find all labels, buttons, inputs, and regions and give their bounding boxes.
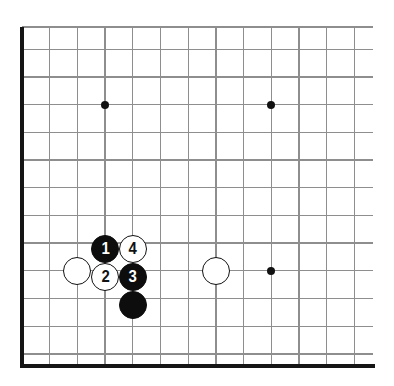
grid-line-vertical-6	[188, 27, 189, 366]
board-edge-bottom	[20, 364, 375, 368]
stone-black-move-3[interactable]: 3	[119, 263, 147, 291]
grid-line-horizontal-0	[22, 26, 373, 27]
stone-white-right[interactable]	[202, 257, 230, 285]
stone-white-move-2[interactable]: 2	[91, 263, 119, 291]
hoshi-upper-left-icon	[101, 101, 109, 109]
goban-grid[interactable]: 1423	[0, 0, 394, 386]
grid-line-horizontal-12	[22, 353, 373, 354]
grid-line-vertical-1	[49, 27, 50, 366]
stone-black-lower[interactable]	[119, 291, 147, 319]
grid-line-horizontal-8	[22, 242, 373, 243]
stone-white-left[interactable]	[63, 257, 91, 285]
grid-line-vertical-2	[77, 27, 78, 366]
hoshi-upper-right-icon	[267, 101, 275, 109]
grid-line-horizontal-5	[22, 159, 373, 160]
grid-line-horizontal-7	[22, 215, 373, 216]
grid-line-horizontal-2	[22, 76, 373, 77]
grid-line-vertical-9	[271, 27, 272, 366]
stone-white-move-4[interactable]: 4	[119, 235, 147, 263]
stone-black-move-1[interactable]: 1	[91, 235, 119, 263]
grid-line-vertical-3	[104, 27, 105, 366]
go-board-diagram: 1423	[0, 0, 394, 386]
grid-line-horizontal-6	[22, 187, 373, 188]
grid-line-horizontal-4	[22, 132, 373, 133]
grid-line-horizontal-3	[22, 104, 373, 105]
board-edge-left	[20, 27, 24, 368]
grid-line-horizontal-10	[22, 298, 373, 299]
grid-line-vertical-10	[298, 27, 299, 366]
stone-move-number: 4	[129, 240, 137, 257]
grid-line-horizontal-11	[22, 326, 373, 327]
hoshi-lower-right-icon	[267, 267, 275, 275]
grid-line-vertical-8	[243, 27, 244, 366]
grid-line-vertical-12	[354, 27, 355, 366]
grid-line-vertical-7	[215, 27, 216, 366]
grid-line-vertical-11	[326, 27, 327, 366]
stone-move-number: 3	[129, 268, 137, 285]
stone-move-number: 2	[101, 268, 109, 285]
stone-move-number: 1	[101, 240, 109, 257]
grid-line-vertical-5	[160, 27, 161, 366]
grid-line-horizontal-1	[22, 49, 373, 50]
